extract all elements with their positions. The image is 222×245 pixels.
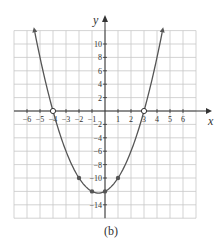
filled-point <box>90 189 94 193</box>
x-tick-label: −2 <box>75 115 84 124</box>
x-tick-label: 2 <box>129 115 133 124</box>
curve-arrow-icon <box>32 27 37 32</box>
open-point <box>141 108 146 113</box>
open-point <box>50 108 55 113</box>
y-tick-label: 2 <box>98 94 102 103</box>
x-tick-label: 6 <box>181 115 185 124</box>
filled-point <box>77 176 81 180</box>
curve-arrow-icon <box>160 27 165 32</box>
y-tick-label: −4 <box>93 134 102 143</box>
y-axis-label: y <box>92 13 99 27</box>
y-tick-label: −8 <box>93 161 102 170</box>
figure-caption: (b) <box>0 224 222 239</box>
y-tick-label: 10 <box>94 40 102 49</box>
x-tick-label: 4 <box>155 115 159 124</box>
parabola-chart: xy−6−5−4−3−2−1123456108642−2−4−6−8−10−14 <box>0 0 222 245</box>
x-tick-label: −3 <box>62 115 71 124</box>
y-tick-label: 6 <box>98 67 102 76</box>
y-tick-label: −10 <box>89 174 102 183</box>
y-tick-label: 8 <box>98 53 102 62</box>
x-tick-label: −5 <box>36 115 45 124</box>
y-tick-label: −2 <box>93 120 102 129</box>
y-tick-label: 4 <box>98 80 102 89</box>
x-tick-label: −6 <box>23 115 32 124</box>
y-axis-arrow-icon <box>102 15 108 22</box>
filled-point <box>103 189 107 193</box>
x-axis-label: x <box>207 114 214 128</box>
x-tick-label: 5 <box>168 115 172 124</box>
filled-point <box>116 176 120 180</box>
x-tick-label: 1 <box>116 115 120 124</box>
y-tick-label: −6 <box>93 147 102 156</box>
y-tick-label: −14 <box>89 201 102 210</box>
